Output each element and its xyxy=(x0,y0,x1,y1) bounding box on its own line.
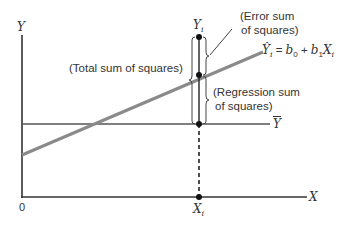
b1-symbol: b xyxy=(311,43,319,57)
x-symbol: X xyxy=(323,43,332,57)
plus-sign: + xyxy=(298,44,311,56)
yhat-symbol: Ŷ xyxy=(262,43,270,57)
mean-line-label: Y xyxy=(273,118,281,131)
equals-sign: = xyxy=(272,44,285,56)
regression-brace xyxy=(203,76,209,124)
regression-equation: Ŷi = b0 + b1Xi xyxy=(262,44,334,61)
x-point-label-base: X xyxy=(193,202,202,216)
predicted-point xyxy=(196,72,202,78)
yhat-base: Ŷ xyxy=(262,43,270,57)
error-leader-line xyxy=(210,29,232,55)
observed-label-base: Y xyxy=(193,18,201,32)
error-sum-of-squares-label-line2: of squares) xyxy=(241,24,299,37)
x-point-label: Xi xyxy=(193,203,204,220)
x-axis-label: X xyxy=(309,191,318,204)
regression-sum-of-squares-label-line2: of squares) xyxy=(215,100,273,113)
regression-sum-of-squares-label-line1: (Regression sum xyxy=(213,86,300,99)
x-sub: i xyxy=(332,50,335,59)
x-point-label-sub: i xyxy=(202,209,205,218)
observed-label-sub: i xyxy=(201,25,204,34)
x-point xyxy=(196,194,202,200)
observed-label: Yi xyxy=(193,19,203,36)
total-sum-of-squares-label: (Total sum of squares) xyxy=(69,62,183,75)
y-axis-label: Y xyxy=(17,21,25,34)
error-sum-of-squares-label-line1: (Error sum xyxy=(240,10,294,23)
origin-label: 0 xyxy=(19,201,25,214)
error-brace xyxy=(203,37,209,75)
regression-sum-of-squares-diagram: Y X 0 Yi Xi Y Ŷi = b0 + b1Xi (Total sum … xyxy=(0,0,342,225)
mean-point xyxy=(196,121,202,127)
